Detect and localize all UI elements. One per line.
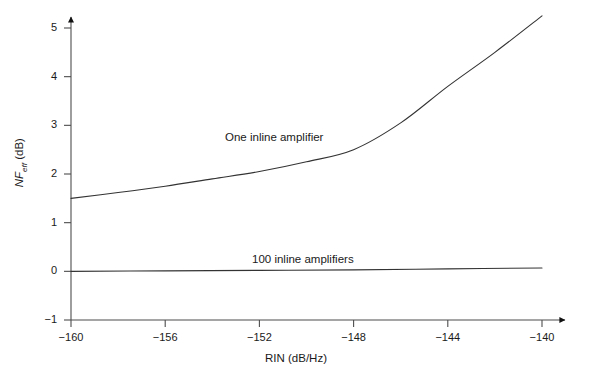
tick-marks-group	[64, 28, 542, 327]
y-tick-label: 1	[33, 216, 57, 228]
axes-group	[71, 17, 565, 320]
x-tick-label: −152	[236, 331, 282, 343]
series-annotation-one-amplifier: One inline amplifier	[225, 131, 323, 143]
y-axis-title: NFeff (dB)	[13, 108, 28, 218]
y-axis-symbol: NF	[13, 172, 25, 187]
series-annotation-hundred-amplifiers: 100 inline amplifiers	[252, 253, 354, 265]
x-tick-label: −140	[519, 331, 565, 343]
y-tick-label: 5	[33, 21, 57, 33]
x-tick-label: −160	[48, 331, 94, 343]
y-axis-subscript: eff	[20, 163, 29, 172]
y-tick-label: −1	[33, 313, 57, 325]
y-tick-label: 0	[33, 264, 57, 276]
y-axis-unit: (dB)	[13, 138, 25, 160]
x-tick-label: −156	[142, 331, 188, 343]
x-tick-label: −148	[331, 331, 377, 343]
x-tick-label: −144	[425, 331, 471, 343]
series-line-2	[71, 268, 542, 271]
y-tick-label: 3	[33, 118, 57, 130]
x-axis-title: RIN (dB/Hz)	[0, 352, 592, 364]
y-tick-label: 2	[33, 167, 57, 179]
chart-plot-area	[0, 0, 592, 379]
data-series-group	[71, 16, 542, 271]
y-tick-label: 4	[33, 70, 57, 82]
series-line-1	[71, 16, 542, 199]
chart-figure: −1012345 −160−156−152−148−144−140 RIN (d…	[0, 0, 592, 379]
